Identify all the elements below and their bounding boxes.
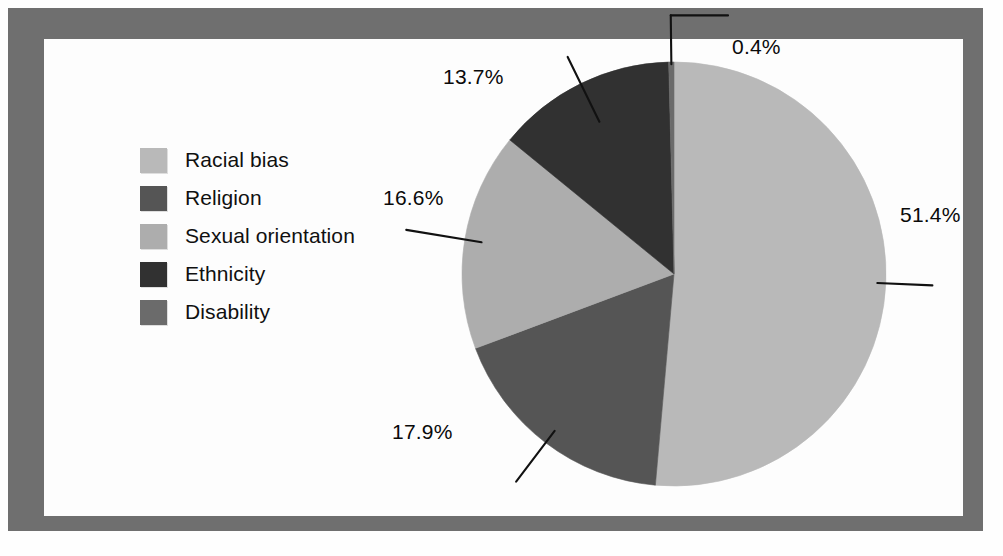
legend-item-disability[interactable]: Disability [140, 293, 430, 331]
legend-swatch-icon-religion [140, 186, 167, 211]
legend-label-religion: Religion [185, 186, 262, 210]
legend-item-religion[interactable]: Religion [140, 179, 430, 217]
legend-item-racial-bias[interactable]: Racial bias [140, 141, 430, 179]
legend-label-racial-bias: Racial bias [185, 148, 289, 172]
legend-swatch-icon-racial-bias [140, 148, 167, 173]
legend-item-sexual-orientation[interactable]: Sexual orientation [140, 217, 430, 255]
legend-swatch-icon-sexual-orientation [140, 224, 167, 249]
legend-swatch-icon-ethnicity [140, 262, 167, 287]
legend-label-sexual-orientation: Sexual orientation [185, 224, 355, 248]
figure-root: Racial bias Religion Sexual orientation … [0, 0, 1003, 556]
legend-label-ethnicity: Ethnicity [185, 262, 265, 286]
legend-swatch-icon-disability [140, 300, 167, 325]
legend-label-disability: Disability [185, 300, 270, 324]
chart-legend: Racial bias Religion Sexual orientation … [140, 141, 430, 331]
legend-item-ethnicity[interactable]: Ethnicity [140, 255, 430, 293]
